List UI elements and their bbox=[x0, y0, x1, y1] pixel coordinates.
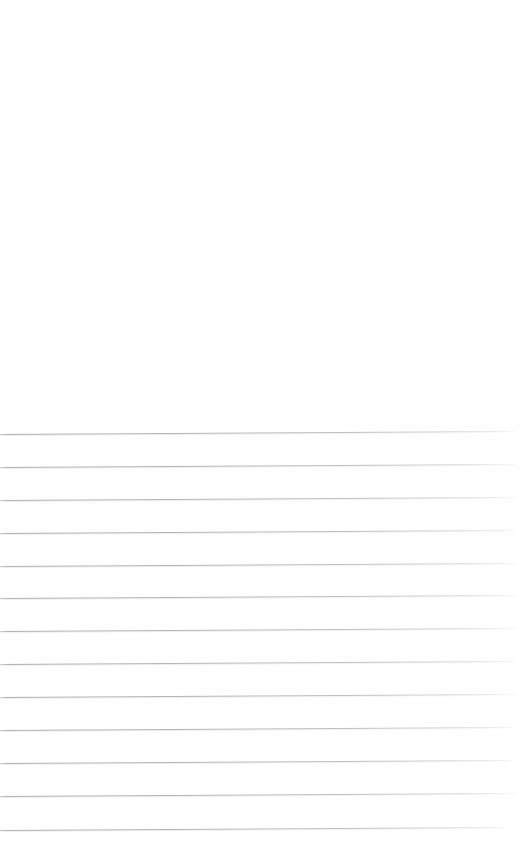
rule-line bbox=[0, 563, 517, 567]
scanned-page bbox=[0, 0, 521, 866]
rule-line bbox=[0, 760, 517, 764]
rule-line bbox=[0, 827, 510, 831]
rule-line bbox=[0, 431, 517, 435]
rule-line bbox=[0, 793, 517, 797]
rule-line bbox=[0, 727, 517, 731]
rule-line bbox=[0, 464, 517, 468]
rule-line bbox=[0, 530, 517, 534]
rule-line bbox=[0, 694, 517, 698]
ruled-lines-container bbox=[0, 0, 521, 866]
rule-line bbox=[0, 595, 517, 599]
rule-line bbox=[0, 628, 517, 632]
rule-line bbox=[0, 497, 517, 501]
rule-line bbox=[0, 661, 517, 665]
